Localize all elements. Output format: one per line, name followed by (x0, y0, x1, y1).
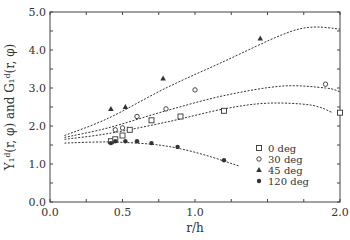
y-tick-label: 5.0 (29, 6, 47, 19)
circle-open-marker (135, 114, 139, 118)
circle-open-marker (257, 157, 261, 161)
circle-open-marker (164, 107, 168, 111)
circle-open-marker (193, 88, 197, 92)
legend-item: 0 deg (257, 143, 297, 154)
circle-open-marker (120, 126, 124, 130)
square-open-marker (120, 133, 125, 138)
legend-item: 120 deg (257, 176, 310, 187)
triangle-filled-marker (160, 76, 166, 81)
x-tick-label: 0.5 (114, 206, 132, 219)
y-tick-label: 2.0 (29, 120, 47, 133)
square-open-marker (222, 108, 227, 113)
fit-curve (65, 142, 239, 166)
y-tick-labels: 0.01.02.03.04.05.0 (29, 6, 47, 209)
square-open-marker (338, 110, 343, 115)
y-tick-label: 0.0 (29, 196, 47, 209)
triangle-filled-marker (257, 36, 263, 41)
legend-item: 30 deg (257, 154, 303, 165)
circle-open-marker (323, 82, 327, 86)
triangle-filled-marker (256, 167, 262, 172)
legend-label: 45 deg (268, 165, 303, 176)
square-open-marker (178, 114, 183, 119)
triangle-filled-marker (108, 106, 114, 111)
circle-filled-marker (149, 141, 153, 145)
square-open-marker (257, 146, 262, 151)
y-tick-label: 3.0 (29, 82, 47, 95)
circle-filled-marker (135, 139, 139, 143)
legend-label: 30 deg (268, 154, 303, 165)
legend-label: 120 deg (268, 176, 310, 187)
circle-filled-marker (257, 179, 261, 183)
y-axis-label: Y₁ᵈ(r, φ) and G₁ᵈ(r, φ) (3, 44, 17, 172)
circle-filled-marker (175, 145, 179, 149)
legend-item: 45 deg (256, 165, 303, 176)
x-tick-label: 2.0 (331, 206, 349, 219)
circle-filled-marker (113, 139, 117, 143)
y-tick-label: 4.0 (29, 44, 47, 57)
circle-filled-marker (222, 158, 226, 162)
legend-label: 0 deg (268, 143, 297, 154)
fit-curve (65, 86, 341, 138)
fit-curve (65, 103, 333, 139)
square-open-marker (127, 127, 132, 132)
x-tick-label: 1.0 (186, 206, 204, 219)
chart-root: 0.00.51.02.0 0.01.02.03.04.05.0 r/h Y₁ᵈ(… (0, 0, 350, 240)
x-tick-labels: 0.00.51.02.0 (41, 206, 349, 219)
fit-curve (65, 27, 341, 136)
circle-filled-marker (109, 141, 113, 145)
circle-filled-marker (123, 139, 127, 143)
triangle-filled-marker (123, 104, 129, 109)
circle-open-marker (113, 128, 117, 132)
y-tick-label: 1.0 (29, 158, 47, 171)
square-open-marker (149, 118, 154, 123)
x-axis-label: r/h (186, 221, 204, 235)
fit-curves (65, 27, 341, 166)
legend: 0 deg30 deg45 deg120 deg (256, 143, 309, 187)
